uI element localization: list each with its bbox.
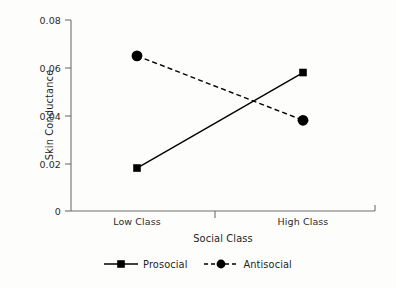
chart-plot-area <box>0 0 396 288</box>
legend-item-antisocial: Antisocial <box>204 258 291 270</box>
chart-figure: 0.08 0.06 0.04 0.02 0 Low Class High Cla… <box>0 0 396 288</box>
x-tick-label-low-class: Low Class <box>113 216 161 227</box>
legend-label-antisocial: Antisocial <box>243 259 291 270</box>
series-prosocial-point-low-class <box>133 164 141 172</box>
x-axis-title: Social Class <box>193 233 253 244</box>
x-tick-label-high-class: High Class <box>278 216 329 227</box>
y-tick-label-4: 0.08 <box>20 15 61 26</box>
y-tick-label-0: 0 <box>20 206 61 217</box>
y-tick-label-1: 0.02 <box>20 159 61 170</box>
y-tick-label-3: 0.06 <box>20 63 61 74</box>
series-prosocial-point-high-class <box>299 69 307 77</box>
legend-glyph-antisocial-circle-dashed-line <box>204 258 238 270</box>
series-prosocial-line <box>137 73 303 168</box>
y-tick-label-2: 0.04 <box>20 111 61 122</box>
legend-glyph-prosocial-square-line <box>104 258 138 270</box>
legend-label-prosocial: Prosocial <box>143 259 187 270</box>
series-antisocial-line <box>137 56 303 120</box>
series-antisocial-point-low-class <box>132 50 143 61</box>
legend-item-prosocial: Prosocial <box>104 258 187 270</box>
y-axis-title: Skin Conductance <box>44 70 55 161</box>
chart-legend: Prosocial Antisocial <box>0 258 396 270</box>
series-antisocial-point-high-class <box>298 115 309 126</box>
